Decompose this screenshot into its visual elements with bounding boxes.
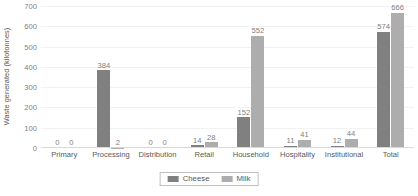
y-axis-title: Waste generated (kilotonnes)	[0, 0, 14, 152]
x-tick-label: Household	[228, 149, 275, 163]
y-tick-label: 100	[24, 123, 37, 132]
bar-slot: 384	[97, 6, 110, 148]
bar-slot: 0	[51, 6, 64, 148]
bar-group: 1428	[181, 6, 228, 148]
y-tick-label: 500	[24, 42, 37, 51]
bar-slot: 12	[331, 6, 344, 148]
x-tick-label: Processing	[88, 149, 135, 163]
y-tick-label: 600	[24, 22, 37, 31]
bar-value-label: 384	[98, 62, 111, 70]
bar-slot: 552	[251, 6, 264, 148]
y-tick-label: 400	[24, 62, 37, 71]
x-tick-label: Institutional	[321, 149, 368, 163]
bar-chart: Waste generated (kilotonnes) 01002003004…	[0, 0, 418, 196]
bar-value-label: 14	[193, 137, 201, 145]
x-tick-label: Primary	[41, 149, 88, 163]
bar-slot: 666	[391, 6, 404, 148]
bar-cheese[interactable]: 384	[97, 70, 110, 148]
bar-group: 152552	[228, 6, 275, 148]
bar-value-label: 44	[347, 130, 355, 138]
x-tick-label: Total	[367, 149, 414, 163]
bar-group: 1141	[274, 6, 321, 148]
legend-label: Cheese	[183, 175, 210, 183]
bar-value-label: 574	[377, 23, 390, 31]
bar-value-label: 11	[286, 137, 294, 145]
bar-value-label: 0	[69, 139, 73, 147]
y-axis-tick-labels: 0100200300400500600700	[14, 6, 40, 148]
bar-slot: 574	[377, 6, 390, 148]
bar-value-label: 41	[300, 131, 308, 139]
bar-slot: 28	[205, 6, 218, 148]
legend-item-cheese[interactable]: Cheese	[168, 175, 210, 183]
bar-slot: 41	[298, 6, 311, 148]
y-tick-label: 0	[33, 144, 37, 153]
bar-value-label: 12	[333, 137, 341, 145]
x-tick-label: Retail	[181, 149, 228, 163]
y-axis-title-text: Waste generated (kilotonnes)	[3, 27, 12, 125]
bar-value-label: 666	[391, 4, 404, 12]
bar-slot: 152	[237, 6, 250, 148]
bar-slot: 2	[111, 6, 124, 148]
bar-cheese[interactable]: 152	[237, 117, 250, 148]
bar-slot: 0	[65, 6, 78, 148]
bar-group: 574666	[367, 6, 414, 148]
bar-slot: 14	[191, 6, 204, 148]
bar-value-label: 552	[251, 27, 264, 35]
cheese-swatch	[168, 176, 179, 182]
bar-group: 3842	[88, 6, 135, 148]
x-axis-line	[41, 147, 414, 148]
bar-slot: 44	[345, 6, 358, 148]
y-tick-label: 700	[24, 2, 37, 11]
bar-group: 00	[41, 6, 88, 148]
bar-milk[interactable]: 552	[251, 36, 264, 148]
bar-value-label: 28	[207, 134, 215, 142]
chart-legend: CheeseMilk	[160, 172, 259, 186]
y-tick-label: 300	[24, 83, 37, 92]
bar-value-label: 0	[162, 139, 166, 147]
bar-value-label: 0	[148, 139, 152, 147]
bar-group: 1244	[321, 6, 368, 148]
bar-groups: 00384200142815255211411244574666	[41, 6, 414, 148]
legend-item-milk[interactable]: Milk	[222, 175, 251, 183]
x-tick-label: Distribution	[134, 149, 181, 163]
plot-area: 00384200142815255211411244574666	[41, 6, 414, 148]
bar-value-label: 0	[55, 139, 59, 147]
bar-milk[interactable]: 666	[391, 13, 404, 148]
bar-slot: 0	[158, 6, 171, 148]
legend-label: Milk	[237, 175, 251, 183]
x-axis-tick-labels: PrimaryProcessingDistributionRetailHouse…	[41, 149, 414, 163]
bar-group: 00	[134, 6, 181, 148]
bar-cheese[interactable]: 574	[377, 32, 390, 148]
bar-value-label: 152	[237, 109, 250, 117]
milk-swatch	[222, 176, 233, 182]
x-tick-label: Hospitality	[274, 149, 321, 163]
bar-value-label: 2	[116, 139, 120, 147]
bar-slot: 0	[144, 6, 157, 148]
y-tick-label: 200	[24, 103, 37, 112]
bar-slot: 11	[284, 6, 297, 148]
